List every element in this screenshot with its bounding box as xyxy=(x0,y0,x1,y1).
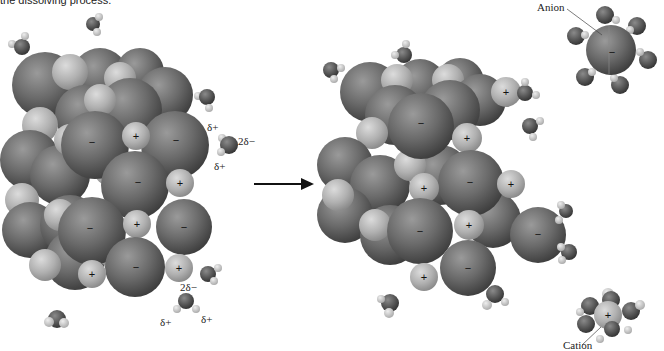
two-delta-minus-label-2: 2δ− xyxy=(180,281,197,293)
delta-plus-label-3: δ+ xyxy=(160,316,171,328)
delta-plus-label-1: δ+ xyxy=(207,121,218,133)
svg-text:−: − xyxy=(609,46,615,58)
svg-text:+: + xyxy=(133,130,139,142)
svg-text:+: + xyxy=(134,218,140,230)
svg-text:+: + xyxy=(177,177,183,189)
svg-text:+: + xyxy=(508,178,514,190)
delta-plus-label-2: δ+ xyxy=(214,160,225,172)
svg-text:−: − xyxy=(133,261,139,273)
svg-text:+: + xyxy=(466,219,472,231)
svg-text:−: − xyxy=(467,176,473,188)
svg-text:+: + xyxy=(503,86,509,98)
svg-text:+: + xyxy=(176,262,182,274)
diagram-canvas: − − + − + − + − − + + xyxy=(0,0,664,351)
delta-plus-label-4: δ+ xyxy=(201,313,212,325)
svg-text:−: − xyxy=(535,228,541,240)
svg-text:−: − xyxy=(181,221,187,233)
hydrated-cation: + xyxy=(576,288,645,345)
svg-text:−: − xyxy=(418,117,424,129)
svg-text:+: + xyxy=(605,309,611,321)
svg-text:−: − xyxy=(135,176,141,188)
reaction-arrow xyxy=(254,178,314,190)
svg-text:+: + xyxy=(421,271,427,283)
svg-text:−: − xyxy=(89,136,95,148)
svg-text:−: − xyxy=(417,225,423,237)
cation-label: Cation xyxy=(563,339,592,351)
dissolving-diagram: the dissolving process. xyxy=(0,0,664,351)
hydrated-anion: − xyxy=(567,6,657,94)
two-delta-minus-label-1: 2δ− xyxy=(238,135,255,147)
svg-text:+: + xyxy=(421,182,427,194)
svg-text:−: − xyxy=(87,222,93,234)
svg-text:−: − xyxy=(465,262,471,274)
svg-text:+: + xyxy=(89,268,95,280)
left-crystal: − − + − + − + − − + + xyxy=(0,48,212,297)
figure-caption: the dissolving process. xyxy=(0,0,111,6)
anion-label: Anion xyxy=(537,1,565,13)
svg-text:+: + xyxy=(464,132,470,144)
svg-text:−: − xyxy=(173,134,179,146)
